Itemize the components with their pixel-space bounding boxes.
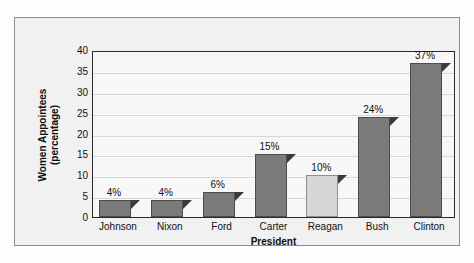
bar-shadow [287, 154, 296, 217]
x-axis-tick-label: Reagan [298, 221, 352, 232]
bar-shadow [442, 63, 451, 217]
x-axis-title: President [92, 236, 455, 247]
y-axis-tick-label: 15 [67, 150, 88, 160]
y-axis-tick-labels: 4035302520151050 [67, 18, 88, 247]
chart-figure: Women Appointees (percentage) 4035302520… [0, 0, 474, 263]
bar[interactable] [358, 117, 390, 217]
y-axis-title-line1: Women Appointees [37, 88, 49, 181]
x-axis-tick-label: Ford [195, 221, 249, 232]
plot-inner: 4%4%6%15%10%24%37% [93, 52, 454, 217]
y-axis-title: Women Appointees (percentage) [31, 51, 67, 218]
x-axis-tick-label: Bush [350, 221, 404, 232]
bar-shadow [131, 200, 140, 217]
bar-shadow [390, 117, 399, 217]
bar[interactable] [99, 200, 131, 217]
y-axis-tick-label: 5 [67, 192, 88, 202]
y-axis-tick-label: 30 [67, 88, 88, 98]
y-axis-tick-label: 20 [67, 130, 88, 140]
x-axis-tick-labels: JohnsonNixonFordCarterReaganBushClinton [92, 221, 455, 235]
x-axis-tick-label: Clinton [402, 221, 456, 232]
bar-value-label: 6% [195, 179, 241, 190]
y-axis-tick-label: 0 [67, 213, 88, 223]
bar-value-label: 37% [402, 50, 448, 61]
bar-value-label: 4% [91, 187, 137, 198]
y-axis-title-line2: (percentage) [49, 88, 61, 181]
x-axis-tick-label: Carter [247, 221, 301, 232]
y-axis-tick-label: 40 [67, 46, 88, 56]
x-axis-tick-label: Nixon [143, 221, 197, 232]
y-axis-tick-label: 25 [67, 109, 88, 119]
bar[interactable] [306, 175, 338, 217]
bar[interactable] [151, 200, 183, 217]
bar[interactable] [410, 63, 442, 217]
bar[interactable] [255, 154, 287, 217]
x-axis-tick-label: Johnson [91, 221, 145, 232]
figure-frame: Women Appointees (percentage) 4035302520… [14, 17, 460, 246]
bar-value-label: 15% [247, 141, 293, 152]
bar-value-label: 10% [298, 162, 344, 173]
y-axis-tick-label: 35 [67, 67, 88, 77]
y-axis-tick-label: 10 [67, 171, 88, 181]
bar-shadow [338, 175, 347, 217]
bar[interactable] [203, 192, 235, 217]
plot-area: 4%4%6%15%10%24%37% [92, 51, 455, 218]
bar-value-label: 24% [350, 104, 396, 115]
bar-value-label: 4% [143, 187, 189, 198]
bar-shadow [183, 200, 192, 217]
bar-shadow [235, 192, 244, 217]
bars-layer: 4%4%6%15%10%24%37% [93, 52, 454, 217]
